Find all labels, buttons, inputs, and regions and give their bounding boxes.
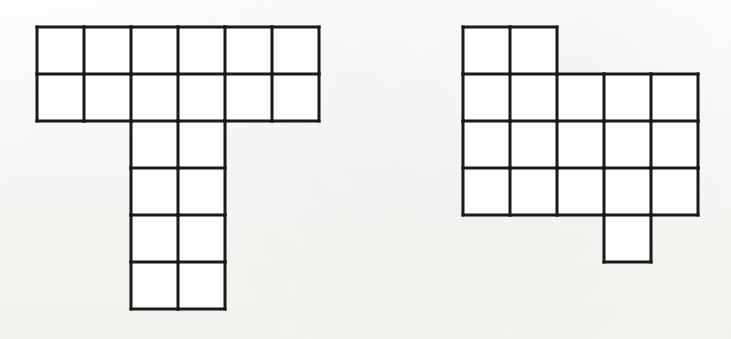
grid-cell — [463, 168, 510, 215]
grid-cell — [225, 74, 272, 121]
grid-cell — [131, 262, 178, 309]
grid-cell — [178, 121, 225, 168]
grid-cell — [131, 215, 178, 262]
grid-cell — [178, 27, 225, 74]
grid-cell — [604, 121, 651, 168]
left-figure — [37, 27, 319, 309]
grid-cell — [225, 27, 272, 74]
grid-cell — [651, 74, 698, 121]
grid-cell — [510, 27, 557, 74]
grid-cell — [131, 74, 178, 121]
grid-cell — [131, 121, 178, 168]
grid-cell — [604, 74, 651, 121]
grid-cell — [651, 121, 698, 168]
grid-cell — [463, 74, 510, 121]
grid-cell — [510, 74, 557, 121]
grid-cell — [131, 27, 178, 74]
grid-cell — [272, 74, 319, 121]
right-figure — [463, 27, 698, 262]
grid-cell — [510, 121, 557, 168]
grid-cell — [131, 168, 178, 215]
grid-cell — [37, 74, 84, 121]
polyomino-diagram — [0, 0, 731, 339]
grid-cell — [557, 74, 604, 121]
grid-cell — [651, 168, 698, 215]
grid-cell — [604, 215, 651, 262]
grid-cell — [510, 168, 557, 215]
figure-canvas — [0, 0, 731, 339]
grid-cell — [557, 121, 604, 168]
grid-cell — [557, 168, 604, 215]
grid-cell — [272, 27, 319, 74]
grid-cell — [463, 27, 510, 74]
grid-cell — [604, 168, 651, 215]
grid-cell — [84, 74, 131, 121]
grid-cell — [178, 74, 225, 121]
grid-cell — [178, 215, 225, 262]
grid-cell — [84, 27, 131, 74]
grid-cell — [37, 27, 84, 74]
grid-cell — [463, 121, 510, 168]
grid-cell — [178, 168, 225, 215]
grid-cell — [178, 262, 225, 309]
